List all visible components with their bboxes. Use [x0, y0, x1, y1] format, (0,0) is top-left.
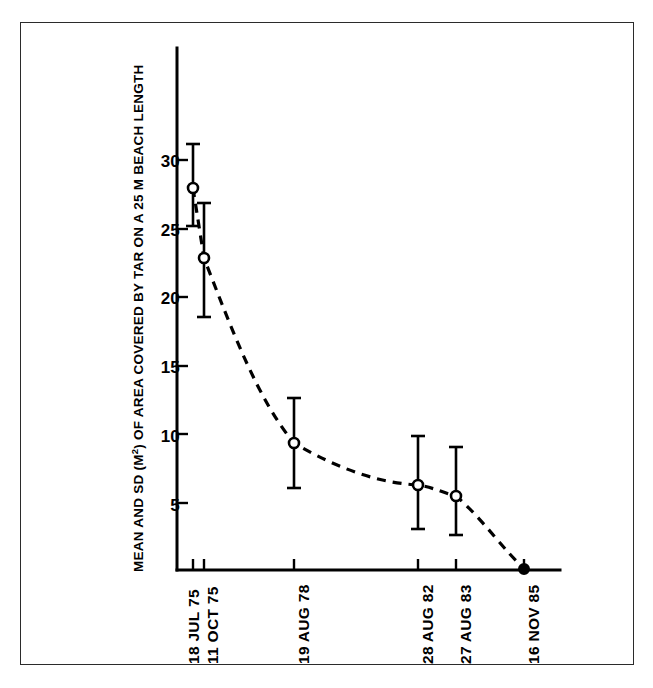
- y-tick-label-30: 30: [146, 153, 180, 170]
- figure-border-frame: [20, 22, 634, 665]
- x-tick-label-19-aug-78: 19 AUG 78: [296, 584, 312, 664]
- y-axis-title-suffix: ) OF AREA COVERED BY TAR ON A 25 M BEACH…: [131, 64, 146, 448]
- x-tick-label-18-jul-75: 18 JUL 75: [186, 589, 202, 664]
- y-axis-title-prefix: MEAN AND SD (M: [131, 454, 146, 572]
- x-tick-label-11-oct-75: 11 OCT 75: [205, 586, 221, 664]
- y-tick-label-25: 25: [146, 222, 180, 239]
- y-tick-label-20: 20: [146, 290, 180, 307]
- y-tick-label-15: 15: [146, 359, 180, 376]
- y-axis-title: MEAN AND SD (M2) OF AREA COVERED BY TAR …: [132, 64, 146, 572]
- y-axis-title-superscript: 2: [129, 449, 140, 455]
- figure-root: MEAN AND SD (M2) OF AREA COVERED BY TAR …: [0, 0, 653, 688]
- x-tick-label-16-nov-85: 16 NOV 85: [526, 585, 542, 664]
- y-tick-label-10: 10: [146, 428, 180, 445]
- y-tick-label-5: 5: [146, 497, 180, 514]
- x-tick-label-27-aug-83: 27 AUG 83: [458, 584, 474, 664]
- x-tick-label-28-aug-82: 28 AUG 82: [420, 584, 436, 664]
